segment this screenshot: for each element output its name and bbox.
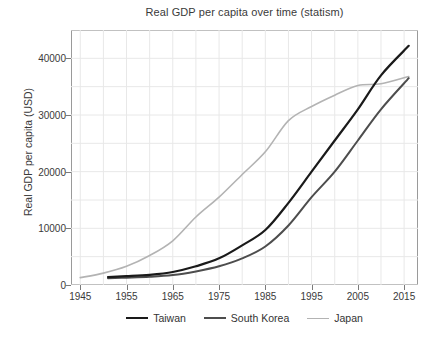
y-tick-mark [65, 228, 71, 229]
x-tick-label: 1955 [115, 291, 137, 302]
x-tick-mark [80, 285, 81, 290]
x-tick-label: 1945 [69, 291, 91, 302]
x-tick-mark [312, 285, 313, 290]
y-axis-label: Real GDP per capita (USD) [22, 52, 34, 252]
legend-item-label: Taiwan [153, 312, 186, 324]
series-line-south-korea [108, 78, 409, 278]
x-tick-mark [265, 285, 266, 290]
y-tick-label: 20000 [38, 166, 66, 177]
x-tick-mark [404, 285, 405, 290]
chart-title: Real GDP per capita over time (statism) [71, 6, 418, 18]
legend-item-label: Japan [334, 312, 363, 324]
y-tick-mark [65, 285, 71, 286]
x-tick-label: 1995 [300, 291, 322, 302]
legend-item-south-korea[interactable]: South Korea [204, 312, 289, 324]
legend-item-taiwan[interactable]: Taiwan [126, 312, 186, 324]
x-tick-mark [219, 285, 220, 290]
y-tick-label: 30000 [38, 110, 66, 121]
y-tick-mark [65, 172, 71, 173]
chart-legend: TaiwanSouth KoreaJapan [71, 312, 418, 324]
x-tick-label: 1965 [162, 291, 184, 302]
legend-item-label: South Korea [231, 312, 289, 324]
legend-line-swatch [204, 317, 226, 319]
y-tick-mark [65, 58, 71, 59]
y-tick-label: 40000 [38, 53, 66, 64]
x-tick-label: 2015 [393, 291, 415, 302]
x-tick-label: 1975 [208, 291, 230, 302]
x-tick-label: 2005 [347, 291, 369, 302]
series-line-taiwan [108, 46, 409, 277]
plot-lines [71, 30, 418, 285]
legend-line-swatch [307, 318, 329, 319]
x-tick-mark [127, 285, 128, 290]
legend-item-japan[interactable]: Japan [307, 312, 363, 324]
y-tick-mark [65, 115, 71, 116]
x-tick-label: 1985 [254, 291, 276, 302]
x-tick-mark [173, 285, 174, 290]
chart-figure: Real GDP per capita over time (statism) … [0, 0, 433, 338]
y-tick-label: 10000 [38, 223, 66, 234]
legend-line-swatch [126, 317, 148, 319]
x-tick-mark [358, 285, 359, 290]
